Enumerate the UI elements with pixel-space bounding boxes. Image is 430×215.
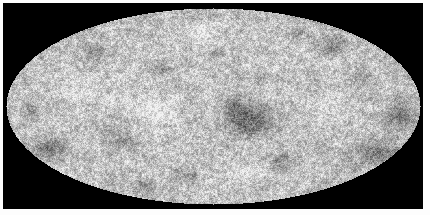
all-sky-map-canvas (3, 3, 423, 209)
page-margin-right (423, 0, 430, 215)
figure-root: Mollweide (0, 0, 430, 215)
sky-map-panel (3, 3, 423, 209)
page-margin-bottom (0, 209, 430, 215)
